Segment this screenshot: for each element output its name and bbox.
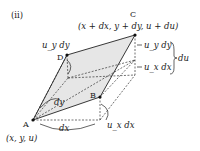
panel-label: (ⅱ) xyxy=(11,10,23,20)
label-uy-dy-right: u_y dy xyxy=(144,40,172,51)
label-d: D xyxy=(57,53,63,62)
point-a xyxy=(31,118,34,121)
label-b: B xyxy=(90,91,96,100)
label-c: C xyxy=(130,10,136,19)
point-b xyxy=(98,95,101,98)
label-a: A xyxy=(22,120,29,129)
label-ux-dx-bottom: u_x dx xyxy=(107,120,135,131)
tangent-plane-diagram: (ⅱ) C (x + dx, y + dy, u + du) D B A (x,… xyxy=(0,0,200,151)
coords-c: (x + dx, y + dy, u + du) xyxy=(78,21,178,31)
arc-ux-dx-bottom xyxy=(101,104,108,120)
label-du: du xyxy=(178,53,189,63)
point-c xyxy=(133,33,136,36)
point-d xyxy=(65,53,68,56)
label-uy-dy-top: u_y dy xyxy=(42,40,70,51)
label-dx: dx xyxy=(59,123,69,133)
label-ux-dx-right: u_x dx xyxy=(144,62,172,73)
coords-a: (x, y, u) xyxy=(6,133,37,143)
label-dy: dy xyxy=(54,97,64,107)
